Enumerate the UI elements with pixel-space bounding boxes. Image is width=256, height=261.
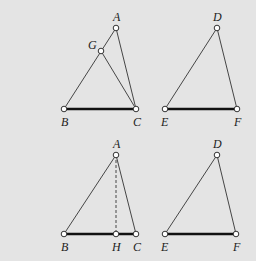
point-label-c: C [133,240,142,254]
triangle-panel-bottom-left: ABHC [61,137,142,254]
point-label-b: B [61,240,69,254]
point-label-e: E [160,240,169,254]
point-d [214,25,220,31]
point-c [133,231,139,237]
triangle-panel-top-left: AGBC [61,10,142,129]
triangle-panel-bottom-right: DEF [160,137,241,254]
point-label-f: F [232,240,241,254]
point-g [98,48,104,54]
point-f [233,231,239,237]
segment-df [217,155,236,234]
point-label-f: F [233,115,242,129]
point-label-a: A [112,10,121,24]
triangle-panel-top-right: DEF [160,10,242,129]
segment-gc [101,51,136,109]
point-label-g: G [88,38,97,52]
point-b [61,106,67,112]
point-f [234,106,240,112]
point-a [113,152,119,158]
segment-ac [116,155,136,234]
segment-de [165,155,217,234]
point-e [162,106,168,112]
segment-de [165,28,217,109]
segment-ac [116,28,136,109]
point-e [162,231,168,237]
point-d [214,152,220,158]
point-h [113,231,119,237]
point-label-e: E [160,115,169,129]
segment-df [217,28,237,109]
point-label-h: H [111,240,122,254]
point-label-c: C [133,115,142,129]
point-a [113,25,119,31]
point-c [133,106,139,112]
point-label-b: B [61,115,69,129]
point-label-d: D [212,10,222,24]
segment-ab [64,155,116,234]
geometry-figure: AGBCDEFABHCDEF [0,0,256,261]
point-label-d: D [212,137,222,151]
point-b [61,231,67,237]
point-label-a: A [112,137,121,151]
